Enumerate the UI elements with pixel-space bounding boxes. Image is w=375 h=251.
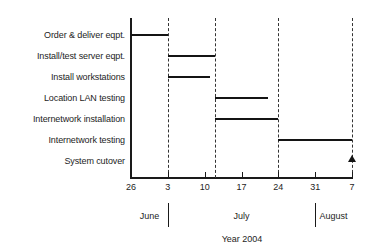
x-tick-label-5: 31 [310,182,320,192]
year-caption: Year 2004 [222,234,263,244]
task-label-internetwork-testing: Internetwork testing [48,135,125,145]
x-tick-label-4: 24 [273,182,283,192]
task-bar-install-workstations [168,76,210,78]
x-tick-0 [131,172,132,178]
task-label-order-deliver-eqpt: Order & deliver eqpt. [44,30,125,40]
x-tick-label-3: 17 [236,182,246,192]
month-separator-july-august [315,203,316,227]
x-tick-4 [278,172,279,178]
task-label-location-lan-testing: Location LAN testing [44,93,125,103]
x-tick-5 [315,172,316,178]
task-bar-location-lan-testing [215,97,268,99]
month-label-august: August [320,211,348,221]
x-tick-6 [352,172,353,178]
task-bar-order-deliver-eqpt [131,34,168,36]
month-label-june: June [140,211,160,221]
task-bar-internetwork-install [215,118,278,120]
y-axis-line [130,18,132,179]
month-separator-june-july [168,203,169,227]
gridline-aug-7 [352,18,353,178]
x-tick-3 [242,172,243,178]
task-bar-install-test-server [168,55,215,57]
gridline-july-3 [168,18,169,178]
milestone-triangle-icon [348,155,356,162]
task-bar-internetwork-testing [278,139,352,141]
x-tick-label-0: 26 [126,182,136,192]
x-tick-label-1: 3 [165,182,170,192]
x-tick-label-6: 7 [349,182,354,192]
gantt-chart: Order & deliver eqpt. Install/test serve… [0,0,375,251]
task-label-install-workstations: Install workstations [51,72,125,82]
task-label-install-test-server: Install/test server eqpt. [37,51,125,61]
month-label-july: July [233,211,249,221]
task-label-internetwork-install: Internetwork installation [33,114,125,124]
gridline-july-24 [278,18,279,178]
task-label-system-cutover: System cutover [64,156,125,166]
x-tick-1 [168,172,169,178]
x-tick-label-2: 10 [200,182,210,192]
x-tick-2 [205,172,206,178]
